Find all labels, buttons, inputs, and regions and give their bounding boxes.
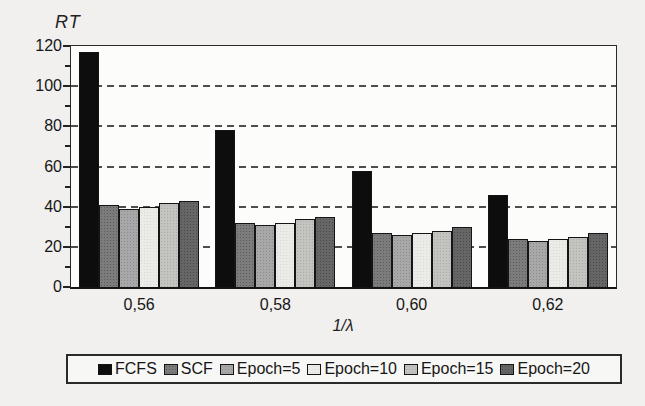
y-major-tick-60 <box>63 166 70 168</box>
bar-epoch-15-2 <box>432 231 452 287</box>
bar-epoch-15-0 <box>159 203 179 287</box>
x-tick-label-0,62: 0,62 <box>503 296 593 314</box>
y-minor-tick-110 <box>65 65 70 67</box>
bar-scf-2 <box>372 233 392 287</box>
y-major-tick-20 <box>63 246 70 248</box>
bar-epoch-15-3 <box>568 237 588 287</box>
y-tick-label-80: 80 <box>20 117 62 135</box>
y-tick-label-0: 0 <box>20 278 62 296</box>
bar-epoch-5-2 <box>392 235 412 287</box>
legend-swatch <box>500 364 514 375</box>
y-tick-label-20: 20 <box>20 238 62 256</box>
legend-swatch <box>164 364 178 375</box>
y-tick-label-100: 100 <box>20 77 62 95</box>
bar-epoch-5-1 <box>255 225 275 287</box>
gridline-100 <box>71 85 616 87</box>
y-major-tick-100 <box>63 85 70 87</box>
gridline-60 <box>71 166 616 168</box>
legend-label: Epoch=10 <box>324 360 397 378</box>
bar-fcfs-0 <box>79 52 99 287</box>
bar-chart-figure: RT 1/λ FCFSSCFEpoch=5Epoch=10Epoch=15Epo… <box>0 0 645 406</box>
legend-label: FCFS <box>115 360 157 378</box>
bar-epoch-20-2 <box>452 227 472 287</box>
legend-item-epoch-15: Epoch=15 <box>404 360 494 378</box>
plot-area <box>70 45 617 289</box>
y-major-tick-80 <box>63 125 70 127</box>
bar-epoch-20-0 <box>179 201 199 287</box>
legend-item-epoch-20: Epoch=20 <box>500 360 590 378</box>
legend: FCFSSCFEpoch=5Epoch=10Epoch=15Epoch=20 <box>66 354 622 384</box>
legend-label: Epoch=20 <box>517 360 590 378</box>
bar-epoch-10-0 <box>139 207 159 287</box>
x-axis-title: 1/λ <box>303 317 383 335</box>
legend-swatch <box>98 364 112 375</box>
bar-epoch-10-1 <box>275 223 295 287</box>
bar-epoch-5-3 <box>528 241 548 287</box>
legend-item-epoch-10: Epoch=10 <box>307 360 397 378</box>
bar-epoch-20-1 <box>315 217 335 287</box>
bar-epoch-10-2 <box>412 233 432 287</box>
legend-item-scf: SCF <box>164 360 213 378</box>
legend-label: Epoch=5 <box>237 360 301 378</box>
bar-fcfs-3 <box>488 195 508 287</box>
x-tick-label-0,58: 0,58 <box>230 296 320 314</box>
legend-label: Epoch=15 <box>421 360 494 378</box>
legend-item-fcfs: FCFS <box>98 360 157 378</box>
legend-item-epoch-5: Epoch=5 <box>220 360 301 378</box>
bar-fcfs-2 <box>352 171 372 287</box>
bar-epoch-15-1 <box>295 219 315 287</box>
y-minor-tick-90 <box>65 105 70 107</box>
legend-swatch <box>307 364 321 375</box>
bar-epoch-20-3 <box>588 233 608 287</box>
y-minor-tick-50 <box>65 186 70 188</box>
y-minor-tick-30 <box>65 226 70 228</box>
x-tick-label-0,60: 0,60 <box>367 296 457 314</box>
legend-label: SCF <box>181 360 213 378</box>
bar-scf-1 <box>235 223 255 287</box>
bar-scf-3 <box>508 239 528 287</box>
bar-scf-0 <box>99 205 119 287</box>
y-tick-label-60: 60 <box>20 158 62 176</box>
y-major-tick-120 <box>63 45 70 47</box>
legend-swatch <box>220 364 234 375</box>
bar-epoch-5-0 <box>119 209 139 287</box>
y-major-tick-0 <box>63 286 70 288</box>
bar-epoch-10-3 <box>548 239 568 287</box>
x-tick-label-0,56: 0,56 <box>94 296 184 314</box>
y-major-tick-40 <box>63 206 70 208</box>
bar-fcfs-1 <box>215 130 235 287</box>
gridline-80 <box>71 125 616 127</box>
y-tick-label-120: 120 <box>20 37 62 55</box>
legend-swatch <box>404 364 418 375</box>
y-axis-title: RT <box>55 12 81 33</box>
y-tick-label-40: 40 <box>20 198 62 216</box>
y-minor-tick-10 <box>65 266 70 268</box>
y-minor-tick-70 <box>65 145 70 147</box>
